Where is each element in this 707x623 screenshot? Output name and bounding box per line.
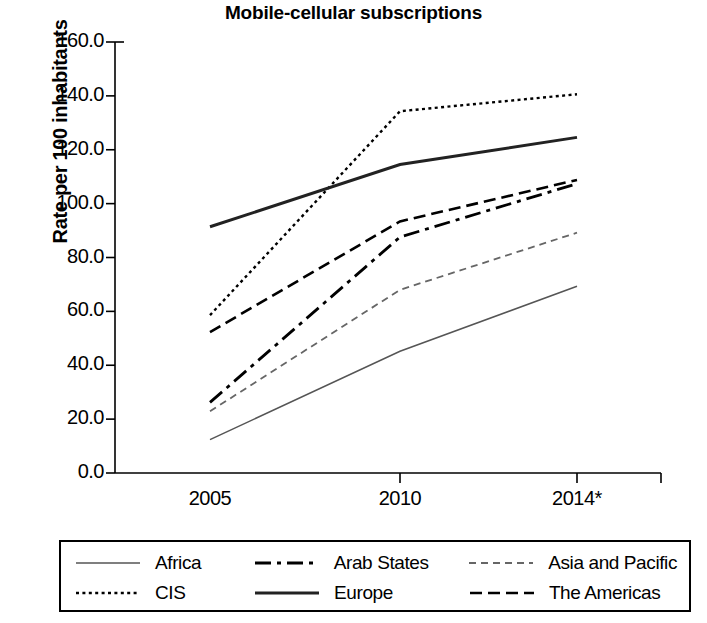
legend-item-africa[interactable]: Africa bbox=[75, 548, 254, 578]
legend-row: AfricaArab StatesAsia and Pacific bbox=[75, 548, 677, 578]
legend-item-the-americas[interactable]: The Americas bbox=[469, 578, 677, 608]
legend-label: Africa bbox=[155, 552, 201, 574]
legend-label: Asia and Pacific bbox=[548, 552, 677, 574]
legend-line-swatch bbox=[75, 556, 141, 570]
chart-container: Mobile-cellular subscriptions Rate per 1… bbox=[0, 0, 707, 623]
legend-line-swatch bbox=[468, 556, 534, 570]
legend-row: CISEuropeThe Americas bbox=[75, 578, 677, 608]
legend-label: Arab States bbox=[334, 552, 429, 574]
plot-area bbox=[0, 0, 707, 540]
data-series-group bbox=[210, 94, 577, 439]
legend-item-arab-states[interactable]: Arab States bbox=[254, 548, 468, 578]
legend-swatch bbox=[75, 556, 141, 570]
chart-legend: AfricaArab StatesAsia and PacificCISEuro… bbox=[59, 540, 691, 612]
legend-line-swatch bbox=[254, 556, 320, 570]
series-line-the-americas bbox=[210, 180, 577, 332]
legend-swatch bbox=[469, 586, 535, 600]
legend-item-europe[interactable]: Europe bbox=[254, 578, 469, 608]
legend-item-cis[interactable]: CIS bbox=[75, 578, 254, 608]
series-line-europe bbox=[210, 137, 577, 226]
legend-swatch bbox=[468, 556, 534, 570]
legend-swatch bbox=[254, 556, 320, 570]
legend-label: The Americas bbox=[549, 582, 660, 604]
axes bbox=[106, 42, 661, 483]
legend-swatch bbox=[254, 586, 320, 600]
series-line-asia-and-pacific bbox=[210, 233, 577, 412]
series-line-africa bbox=[210, 286, 577, 439]
legend-line-swatch bbox=[75, 586, 141, 600]
legend-swatch bbox=[75, 586, 141, 600]
series-line-cis bbox=[210, 94, 577, 315]
legend-line-swatch bbox=[469, 586, 535, 600]
legend-item-asia-and-pacific[interactable]: Asia and Pacific bbox=[468, 548, 677, 578]
legend-line-swatch bbox=[254, 586, 320, 600]
legend-label: Europe bbox=[334, 582, 393, 604]
legend-label: CIS bbox=[155, 582, 185, 604]
